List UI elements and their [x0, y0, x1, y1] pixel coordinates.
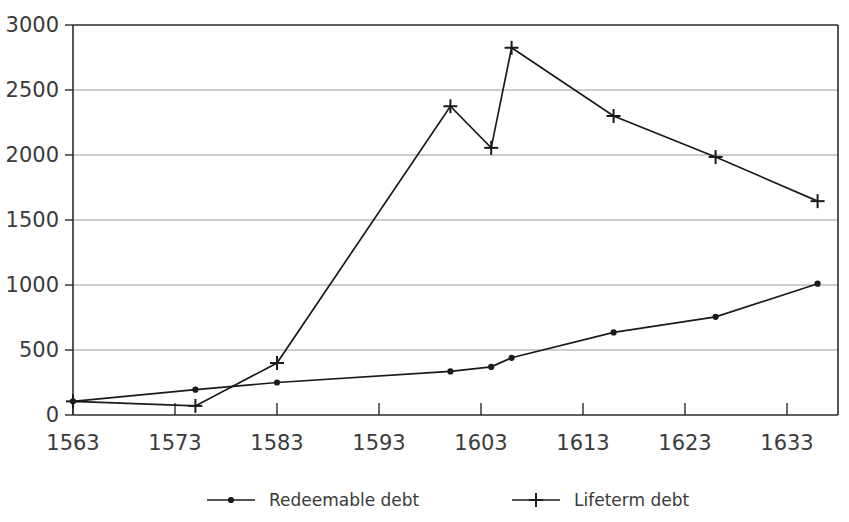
- y-tick-label-1500: 1500: [6, 208, 59, 232]
- data-point-marker-plus: [66, 394, 80, 408]
- legend-marker-plus: [529, 493, 543, 507]
- data-point-marker-dot: [447, 368, 453, 374]
- data-point-marker-plus: [811, 194, 825, 208]
- data-point-marker-dot: [815, 281, 821, 287]
- y-tick-label-3000: 3000: [6, 13, 59, 37]
- x-axis-tick-labels: 15631573158315931603161316231633: [46, 431, 813, 455]
- y-tick-label-2000: 2000: [6, 143, 59, 167]
- data-point-marker-dot: [192, 387, 198, 393]
- series-path: [73, 48, 818, 406]
- series-path: [73, 284, 818, 402]
- y-tick-label-0: 0: [46, 403, 59, 427]
- x-tick-label-1593: 1593: [352, 431, 405, 455]
- y-tick-label-500: 500: [19, 338, 59, 362]
- x-tick-label-1603: 1603: [454, 431, 507, 455]
- data-point-marker-dot: [488, 364, 494, 370]
- data-point-marker-plus: [505, 41, 519, 55]
- legend-label: Lifeterm debt: [574, 490, 689, 510]
- x-tick-label-1563: 1563: [46, 431, 99, 455]
- y-axis-ticks: [65, 25, 73, 415]
- line-chart: 050010001500200025003000 156315731583159…: [0, 0, 849, 522]
- data-point-marker-plus: [607, 109, 621, 123]
- x-tick-label-1633: 1633: [760, 431, 813, 455]
- y-tick-label-1000: 1000: [6, 273, 59, 297]
- data-point-marker-plus: [270, 356, 284, 370]
- data-point-marker-plus: [188, 399, 202, 413]
- series-lifeterm-debt: [66, 41, 825, 413]
- legend-label: Redeemable debt: [269, 490, 420, 510]
- data-point-marker-dot: [274, 379, 280, 385]
- y-tick-label-2500: 2500: [6, 78, 59, 102]
- data-point-marker-dot: [713, 314, 719, 320]
- x-tick-label-1613: 1613: [556, 431, 609, 455]
- chart-svg: 050010001500200025003000 156315731583159…: [0, 0, 849, 522]
- x-tick-label-1623: 1623: [658, 431, 711, 455]
- legend-marker-dot: [228, 497, 234, 503]
- data-point-marker-dot: [509, 355, 515, 361]
- x-tick-label-1583: 1583: [250, 431, 303, 455]
- series-redeemable-debt: [70, 281, 821, 405]
- chart-legend: Redeemable debtLifeterm debt: [207, 490, 689, 510]
- x-tick-label-1573: 1573: [148, 431, 201, 455]
- data-point-marker-dot: [611, 329, 617, 335]
- data-point-marker-plus: [709, 150, 723, 164]
- gridlines: [73, 90, 838, 350]
- legend-item-lifeterm-debt[interactable]: Lifeterm debt: [512, 490, 689, 510]
- legend-item-redeemable-debt[interactable]: Redeemable debt: [207, 490, 420, 510]
- y-axis-tick-labels: 050010001500200025003000: [6, 13, 59, 427]
